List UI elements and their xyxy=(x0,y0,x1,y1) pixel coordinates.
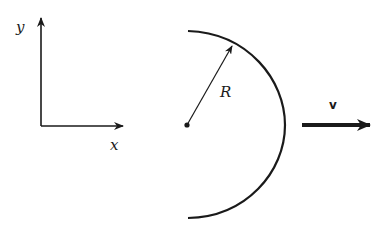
x-axis-label: x xyxy=(110,136,119,154)
diagram-canvas: y x R v xyxy=(0,0,383,228)
y-axis-label: y xyxy=(15,18,25,36)
velocity-label: v xyxy=(329,98,337,112)
radius-label: R xyxy=(219,83,231,101)
velocity-indicator: v xyxy=(302,98,370,125)
hemispherical-shell: R xyxy=(184,31,285,218)
coordinate-axes: y x xyxy=(15,18,123,154)
shell-arc xyxy=(188,31,285,218)
